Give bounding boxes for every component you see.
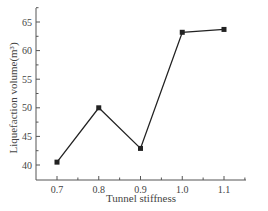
svg-text:55: 55 (22, 74, 32, 85)
svg-text:60: 60 (22, 45, 32, 56)
data-point-marker (222, 27, 227, 32)
data-line (57, 29, 224, 162)
y-axis-label: Liquefaction volume(m³) (7, 33, 19, 163)
svg-text:65: 65 (22, 17, 32, 28)
data-point-marker (180, 30, 185, 35)
svg-text:45: 45 (22, 131, 32, 142)
data-point-marker (96, 105, 101, 110)
x-axis-label: Tunnel stiffness (36, 192, 246, 204)
line-chart: 4045505560650.70.80.91.01.1 (0, 0, 268, 211)
data-markers (55, 27, 227, 165)
axes (36, 8, 246, 180)
data-point-marker (55, 160, 60, 165)
svg-text:50: 50 (22, 102, 32, 113)
tick-labels: 4045505560650.70.80.91.01.1 (22, 17, 230, 196)
svg-text:40: 40 (22, 160, 32, 171)
data-point-marker (138, 146, 143, 151)
